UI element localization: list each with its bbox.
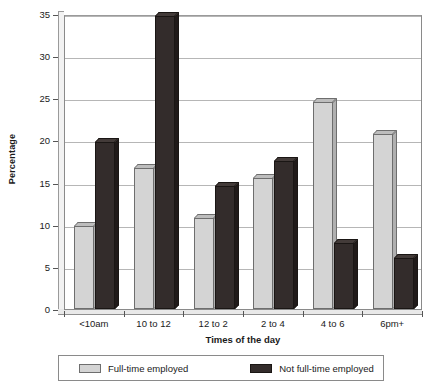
bar-front-face [253, 178, 273, 309]
y-axis-tick [53, 57, 58, 58]
bar-front-face [373, 134, 393, 309]
x-axis-tick-label: 2 to 4 [243, 318, 303, 329]
x-axis-tick-label: <10am [64, 318, 124, 329]
y-axis-tick-label: 10 [22, 221, 50, 231]
plot-area [64, 15, 422, 310]
x-axis-tick [124, 311, 125, 317]
bar-front-face [274, 161, 294, 309]
legend-item-not-full-time: Not full-time employed [250, 363, 374, 374]
bar--10am-series-1 [74, 226, 94, 309]
legend-label-not-full-time: Not full-time employed [279, 363, 374, 374]
y-axis-tick-label: 35 [22, 10, 50, 20]
legend-item-full-time: Full-time employed [79, 363, 188, 374]
x-axis-tick [303, 311, 304, 317]
gridline [65, 16, 421, 17]
x-axis-tick [64, 311, 65, 317]
bar-side-face [115, 138, 119, 309]
chart-legend: Full-time employed Not full-time employe… [58, 355, 384, 381]
y-axis-tick-label: 15 [22, 179, 50, 189]
bar-side-face [175, 12, 179, 309]
bar-6pm--series-2 [394, 258, 414, 309]
y-axis-tick [53, 268, 58, 269]
bar-front-face [215, 186, 235, 309]
y-axis-tick-label: 20 [22, 136, 50, 146]
bar-front-face [155, 16, 175, 309]
bar-side-face [414, 254, 418, 309]
y-axis-tick [53, 310, 58, 311]
bar-2-to-4-series-1 [253, 178, 273, 309]
y-axis-title: Percentage [2, 0, 22, 318]
x-axis-tick-label: 4 to 6 [303, 318, 363, 329]
legend-swatch-icon-not-full-time [250, 364, 272, 373]
bar--10am-series-2 [95, 142, 115, 309]
bar-12-to-2-series-2 [215, 186, 235, 309]
x-axis-tick [183, 311, 184, 317]
x-axis-tick-label: 12 to 2 [183, 318, 243, 329]
y-axis-tick-label: 25 [22, 94, 50, 104]
y-axis-tick [53, 99, 58, 100]
bar-10-to-12-series-1 [134, 168, 154, 309]
bar-front-face [313, 102, 333, 309]
bar-side-face [235, 182, 239, 309]
bar-2-to-4-series-2 [274, 161, 294, 309]
bar-4-to-6-series-1 [313, 102, 333, 309]
y-axis-tick [53, 141, 58, 142]
y-axis-tick-label: 30 [22, 52, 50, 62]
y-axis-tick [53, 184, 58, 185]
x-axis-tick [422, 311, 423, 317]
y-axis-tick-label: 5 [22, 263, 50, 273]
y-axis-tick [53, 15, 58, 16]
x-axis-tick-label: 6pm+ [362, 318, 422, 329]
x-axis-tick [362, 311, 363, 317]
bar-front-face [394, 258, 414, 309]
bar-4-to-6-series-2 [334, 243, 354, 309]
x-axis-tick [243, 311, 244, 317]
y-axis-tick-label: 0 [22, 305, 50, 315]
bar-front-face [194, 218, 214, 309]
x-axis-tick-label: 10 to 12 [124, 318, 184, 329]
gridline [65, 100, 421, 101]
legend-swatch-icon-full-time [79, 364, 101, 373]
x-axis-title: Times of the day [64, 334, 422, 345]
bar-front-face [134, 168, 154, 309]
bar-front-face [74, 226, 94, 309]
legend-label-full-time: Full-time employed [108, 363, 188, 374]
bar-side-face [354, 239, 358, 309]
bar-6pm--series-1 [373, 134, 393, 309]
y-axis-title-text: Percentage [7, 134, 17, 185]
bar-front-face [334, 243, 354, 309]
gridline [65, 58, 421, 59]
y-axis-tick [53, 226, 58, 227]
bar-12-to-2-series-1 [194, 218, 214, 309]
bar-10-to-12-series-2 [155, 16, 175, 309]
bar-front-face [95, 142, 115, 309]
bar-side-face [294, 157, 298, 309]
